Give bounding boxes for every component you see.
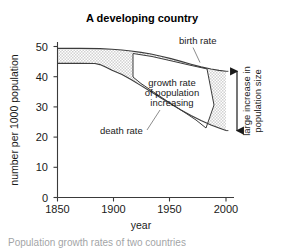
x-tick-label-1850: 1850 bbox=[45, 203, 69, 215]
y-tick-label-20: 20 bbox=[36, 131, 48, 143]
y-tick-label-30: 30 bbox=[36, 101, 48, 113]
chart-title: A developing country bbox=[86, 12, 199, 24]
y-tick-label-10: 10 bbox=[36, 161, 48, 173]
y-tick-label-40: 40 bbox=[36, 71, 48, 83]
large-increase-label-line2: population size bbox=[252, 69, 263, 132]
x-axis-title: year bbox=[131, 219, 152, 231]
y-tick-label-50: 50 bbox=[36, 41, 48, 53]
y-axis-title: number per 1000 population bbox=[8, 54, 20, 186]
y-tick-label-0: 0 bbox=[42, 192, 48, 204]
death-rate-label: death rate bbox=[100, 125, 143, 136]
x-tick-label-1950: 1950 bbox=[157, 203, 181, 215]
birth-rate-label: birth rate bbox=[179, 35, 217, 46]
figure-caption: Population growth rates of two countries bbox=[8, 237, 186, 248]
large-increase-label-line1: large increase in bbox=[241, 66, 252, 136]
x-tick-label-1900: 1900 bbox=[101, 203, 125, 215]
population-growth-chart: 50 40 30 20 10 0 1850 1900 1950 2000 yea… bbox=[0, 0, 286, 248]
x-tick-label-2000: 2000 bbox=[214, 203, 238, 215]
chart-svg: 50 40 30 20 10 0 1850 1900 1950 2000 yea… bbox=[0, 0, 286, 248]
growth-rate-annotation-line3: increasing bbox=[150, 97, 193, 108]
